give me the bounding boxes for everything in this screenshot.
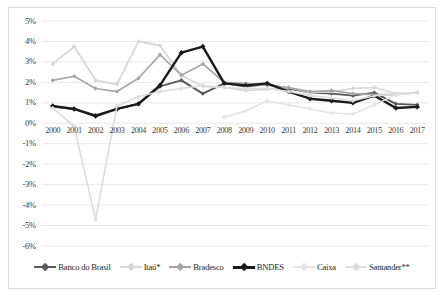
- series-line: [53, 85, 418, 219]
- legend-label: Bradesco: [193, 262, 223, 272]
- data-point-marker: [329, 96, 333, 100]
- legend-swatch-icon: [120, 263, 142, 272]
- legend-item-bradesco[interactable]: Bradesco: [169, 262, 223, 272]
- y-axis-tick-label: 1%: [10, 97, 36, 107]
- data-point-marker: [136, 94, 140, 98]
- data-point-marker: [51, 78, 55, 82]
- legend-swatch-icon: [169, 263, 191, 272]
- legend-item-caixa[interactable]: Caixa: [293, 262, 336, 272]
- data-point-marker: [351, 112, 355, 116]
- legend-swatch-icon: [34, 263, 56, 272]
- chart-legend: Banco do BrasilItaú*BradescoBNDESCaixaSa…: [8, 259, 436, 275]
- chart-root: 5%4%3%2%1%0%-1%-2%-3%-4%-5%-6% 200020012…: [0, 0, 445, 296]
- data-point-marker: [308, 107, 312, 111]
- legend-label: Caixa: [317, 262, 336, 272]
- y-axis-tick-label: 0%: [10, 118, 36, 128]
- legend-item-santander[interactable]: Santander**: [345, 262, 410, 272]
- legend-swatch-icon: [293, 263, 315, 272]
- legend-item-banco-do-brasil[interactable]: Banco do Brasil: [34, 262, 110, 272]
- y-axis-tick-label: -6%: [10, 241, 36, 251]
- y-axis-tick-label: -5%: [10, 220, 36, 230]
- data-point-marker: [329, 111, 333, 115]
- data-point-marker: [351, 86, 355, 90]
- legend-swatch-icon: [233, 263, 255, 272]
- series-bndes: [50, 44, 420, 119]
- data-point-marker: [415, 90, 419, 94]
- data-point-marker: [158, 89, 162, 93]
- x-axis-tick-label: 2017: [404, 126, 430, 135]
- legend-label: Itaú*: [144, 262, 161, 272]
- line-chart-canvas: [0, 0, 445, 296]
- y-axis-tick-label: 2%: [10, 77, 36, 87]
- y-axis-tick-label: 3%: [10, 56, 36, 66]
- series-bradesco: [51, 53, 420, 97]
- legend-item-ita[interactable]: Itaú*: [120, 262, 161, 272]
- legend-item-bndes[interactable]: BNDES: [233, 262, 284, 272]
- y-axis-tick-label: -1%: [10, 138, 36, 148]
- y-axis-tick-label: 5%: [10, 16, 36, 26]
- data-point-marker: [222, 115, 226, 119]
- y-axis-tick-label: -4%: [10, 200, 36, 210]
- legend-label: Banco do Brasil: [58, 262, 110, 272]
- data-point-marker: [286, 103, 290, 107]
- series-line: [53, 47, 418, 117]
- data-point-marker: [93, 217, 97, 221]
- series-santander: [51, 83, 420, 221]
- data-point-marker: [372, 85, 376, 89]
- legend-label: Santander**: [369, 262, 410, 272]
- legend-label: BNDES: [257, 262, 284, 272]
- y-axis-tick-label: 4%: [10, 36, 36, 46]
- y-axis-tick-label: -3%: [10, 179, 36, 189]
- legend-swatch-icon: [345, 263, 367, 272]
- data-point-marker: [222, 85, 226, 89]
- y-axis-tick-label: -2%: [10, 159, 36, 169]
- data-point-marker: [179, 86, 183, 90]
